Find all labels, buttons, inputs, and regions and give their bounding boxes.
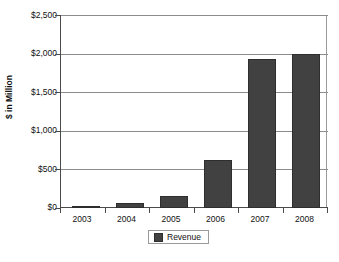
y-tick-label-1000: $1,000 [7,126,57,135]
x-tick-label-2003: 2003 [60,214,104,224]
bar-2008[interactable] [292,54,320,208]
bar-2004[interactable] [116,203,144,208]
x-tick-label-2007: 2007 [238,214,282,224]
y-tick-label-2000: $2,000 [7,49,57,58]
chart-legend[interactable]: Revenue [148,230,209,244]
legend-label-revenue: Revenue [167,233,201,242]
bar-2005[interactable] [160,196,188,208]
legend-swatch-revenue [154,233,163,242]
bar-2006[interactable] [204,160,232,208]
x-tick-mark-3 [194,208,195,213]
bar-2003[interactable] [72,206,100,208]
x-tick-mark-6 [327,208,328,213]
bar-2007[interactable] [248,59,276,208]
x-tick-mark-4 [238,208,239,213]
x-tick-label-2008: 2008 [283,214,327,224]
x-tick-mark-2 [149,208,150,213]
x-tick-mark-1 [105,208,106,213]
x-tick-label-2005: 2005 [149,214,193,224]
y-tick-label-500: $500 [7,165,57,174]
revenue-bar-chart: $ in Million $2,500 $2,000 $1,500 $1,000… [0,0,339,262]
y-axis-title: $ in Million [4,57,14,137]
bars-layer [60,15,327,208]
y-tick-label-1500: $1,500 [7,88,57,97]
x-tick-mark-0 [60,208,61,213]
y-tick-label-2500: $2,500 [7,11,57,20]
chart-title-clipped [104,0,314,7]
y-tick-label-0: $0 [7,203,57,212]
x-tick-label-2004: 2004 [105,214,149,224]
x-tick-label-2006: 2006 [194,214,238,224]
x-tick-mark-5 [283,208,284,213]
